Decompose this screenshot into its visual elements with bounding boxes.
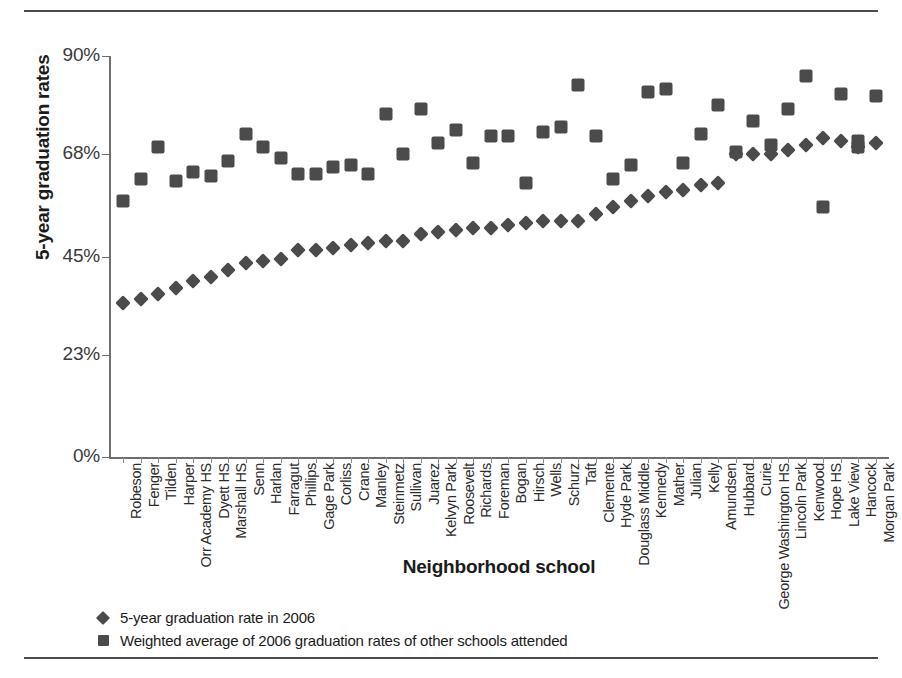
top-divider-rule bbox=[24, 10, 878, 12]
data-point-square bbox=[344, 159, 357, 172]
y-axis-tick bbox=[102, 257, 109, 258]
data-point-diamond bbox=[781, 142, 797, 158]
data-point-diamond bbox=[430, 224, 446, 240]
data-point-square bbox=[834, 87, 847, 100]
x-axis-category-label: Lake View bbox=[846, 463, 862, 527]
data-point-diamond bbox=[570, 213, 586, 229]
x-axis-category-label: Amundsen bbox=[723, 463, 739, 530]
y-axis-tick-label: 45% bbox=[63, 245, 100, 267]
data-point-square bbox=[484, 130, 497, 143]
data-point-diamond bbox=[816, 131, 832, 147]
data-point-diamond bbox=[500, 218, 516, 234]
x-axis-category-label: Marshall HS bbox=[233, 463, 249, 539]
x-axis-category-label: Hope HS bbox=[828, 463, 844, 520]
x-axis-category-label: Corliss bbox=[338, 463, 354, 505]
x-axis-category-labels: RobesonFengerTildenHarperOrr Academy HSD… bbox=[109, 463, 899, 558]
data-point-diamond bbox=[220, 262, 236, 278]
x-axis-category-label: Farragut bbox=[286, 463, 302, 515]
x-axis-title-container: Neighborhood school bbox=[109, 556, 889, 582]
data-point-square bbox=[257, 141, 270, 154]
data-point-diamond bbox=[133, 291, 149, 307]
x-axis-category-label: Kenwood bbox=[811, 463, 827, 521]
x-axis-category-label: George Washington HS bbox=[776, 463, 792, 610]
legend-item-series1: 5-year graduation rate in 2006 bbox=[95, 606, 567, 629]
data-point-diamond bbox=[343, 238, 359, 254]
x-axis-category-label: Harper bbox=[181, 463, 197, 506]
data-point-diamond bbox=[535, 213, 551, 229]
data-point-diamond bbox=[605, 200, 621, 216]
data-point-square bbox=[152, 141, 165, 154]
data-point-diamond bbox=[395, 233, 411, 249]
data-point-diamond bbox=[623, 193, 639, 209]
x-axis-category-label: Tilden bbox=[163, 463, 179, 500]
data-point-diamond bbox=[448, 222, 464, 238]
y-axis-tick-label: 90% bbox=[63, 44, 100, 66]
x-axis-category-label: Douglass Middle bbox=[636, 463, 652, 566]
data-point-diamond bbox=[273, 251, 289, 267]
data-point-square bbox=[799, 70, 812, 83]
data-point-square bbox=[169, 174, 182, 187]
x-axis-category-label: Morgan Park bbox=[881, 463, 897, 543]
data-point-diamond bbox=[746, 146, 762, 162]
x-axis-category-label: Foreman bbox=[496, 463, 512, 519]
square-marker-icon bbox=[95, 635, 111, 646]
data-point-square bbox=[589, 130, 602, 143]
x-axis-category-label: Gage Park bbox=[321, 463, 337, 530]
plot-area bbox=[109, 56, 889, 457]
x-axis-category-label: Fenger bbox=[146, 463, 162, 507]
data-point-diamond bbox=[658, 184, 674, 200]
x-axis-category-label: Taft bbox=[583, 463, 599, 485]
data-point-square bbox=[187, 165, 200, 178]
data-point-square bbox=[729, 145, 742, 158]
x-axis-category-label: Hubbard bbox=[741, 463, 757, 517]
data-point-square bbox=[274, 152, 287, 165]
data-point-diamond bbox=[483, 220, 499, 236]
x-axis-category-label: Lincoln Park bbox=[793, 463, 809, 539]
x-axis-category-label: Senn bbox=[251, 463, 267, 496]
y-axis-tick-label: 68% bbox=[63, 142, 100, 164]
data-point-diamond bbox=[325, 240, 341, 256]
data-point-square bbox=[414, 103, 427, 116]
diamond-marker-icon bbox=[95, 613, 111, 623]
data-point-square bbox=[309, 168, 322, 181]
data-point-diamond bbox=[290, 242, 306, 258]
data-point-diamond bbox=[675, 182, 691, 198]
x-axis-category-label: Robeson bbox=[128, 463, 144, 519]
bottom-divider-rule bbox=[24, 657, 878, 659]
data-point-square bbox=[362, 168, 375, 181]
data-point-diamond bbox=[553, 213, 569, 229]
x-axis-category-label: Steinmetz bbox=[391, 463, 407, 525]
data-point-diamond bbox=[833, 133, 849, 149]
data-point-square bbox=[624, 159, 637, 172]
x-axis-line bbox=[109, 457, 889, 459]
x-axis-category-label: Phillips bbox=[303, 463, 319, 507]
data-point-diamond bbox=[238, 255, 254, 271]
data-point-square bbox=[537, 125, 550, 138]
data-point-square bbox=[327, 161, 340, 174]
x-axis-category-label: Crane bbox=[356, 463, 372, 501]
data-point-diamond bbox=[360, 235, 376, 251]
data-point-square bbox=[134, 172, 147, 185]
x-axis-category-label: Manley bbox=[373, 463, 389, 508]
x-axis-category-label: Clemente bbox=[601, 463, 617, 523]
y-axis-tick bbox=[102, 355, 109, 356]
x-axis-category-label: Mather bbox=[671, 463, 687, 506]
data-point-square bbox=[677, 156, 690, 169]
y-axis-tick-label: 23% bbox=[63, 343, 100, 365]
data-point-square bbox=[204, 170, 217, 183]
data-point-square bbox=[817, 201, 830, 214]
data-point-square bbox=[694, 127, 707, 140]
chart-legend: 5-year graduation rate in 2006 Weighted … bbox=[95, 606, 567, 652]
data-point-square bbox=[607, 172, 620, 185]
x-axis-category-label: Roosevelt bbox=[461, 463, 477, 525]
data-point-square bbox=[519, 176, 532, 189]
y-axis-tick bbox=[102, 457, 109, 458]
data-point-diamond bbox=[185, 273, 201, 289]
data-point-square bbox=[222, 154, 235, 167]
legend-label-series2: Weighted average of 2006 graduation rate… bbox=[120, 632, 567, 649]
y-axis-tick bbox=[102, 56, 109, 57]
legend-item-series2: Weighted average of 2006 graduation rate… bbox=[95, 629, 567, 652]
legend-label-series1: 5-year graduation rate in 2006 bbox=[120, 609, 315, 626]
data-point-square bbox=[449, 123, 462, 136]
data-point-square bbox=[869, 90, 882, 103]
